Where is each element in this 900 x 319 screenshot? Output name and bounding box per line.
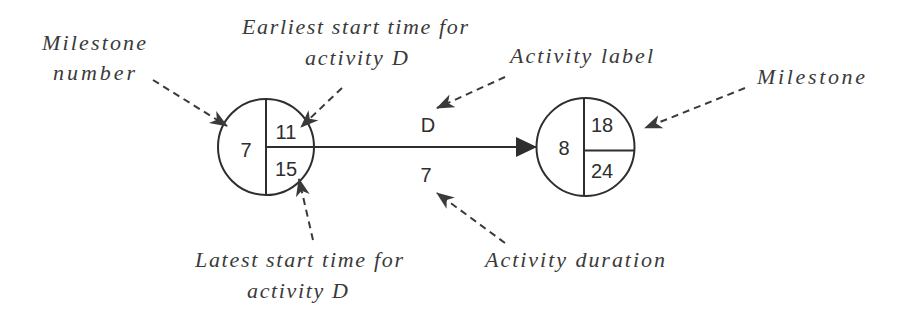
dashed-arrow-icon [301,88,342,127]
latest-start-time: 24 [591,160,613,182]
activity-arrow-d: D 7 [266,114,537,186]
annotation-text: Latest start time for [194,247,403,272]
latest-start-time: 15 [275,158,297,180]
dashed-arrow-icon [437,193,505,243]
annotation-text: Milestone [756,64,865,89]
annotation-activity-duration: Activity duration [437,193,665,272]
dashed-arrow-icon [437,77,505,108]
milestone-number: 8 [558,137,569,159]
annotation-text: Activity duration [483,247,665,272]
annotation-text: number [53,60,135,85]
annotation-milestone: Milestone [645,64,865,128]
annotation-text: activity D [305,45,408,70]
annotation-milestone-number: Milestone number [41,30,227,126]
milestone-node-8: 8 18 24 [537,98,635,196]
earliest-start-time: 18 [591,114,613,136]
activity-duration: 7 [420,164,431,186]
activity-on-arrow-diagram: 7 11 15 D 7 8 18 24 Milestone number Ear… [0,0,900,319]
milestone-number: 7 [240,139,251,161]
dashed-arrow-icon [645,88,745,128]
annotation-earliest-start: Earliest start time for activity D [241,14,468,127]
annotation-text: Earliest start time for [241,14,468,39]
annotation-latest-start: Latest start time for activity D [194,179,403,303]
annotation-text: Activity label [508,43,653,68]
dashed-arrow-icon [299,179,313,240]
activity-label: D [421,114,435,136]
dashed-arrow-icon [153,80,227,126]
earliest-start-time: 11 [276,121,297,143]
milestone-circle [537,98,635,196]
annotation-text: activity D [247,278,348,303]
annotation-activity-label: Activity label [437,43,653,108]
annotation-text: Milestone [41,30,146,55]
